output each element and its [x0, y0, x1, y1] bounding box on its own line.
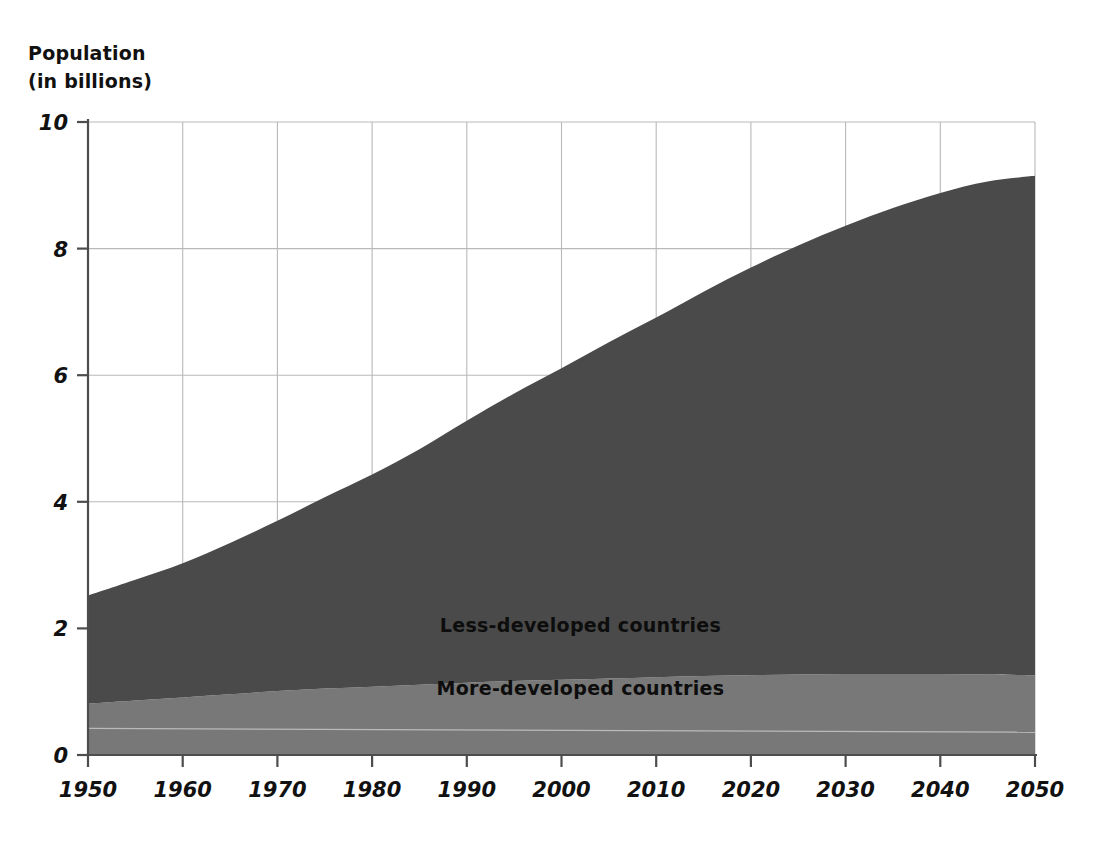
- y-axis-title-line2: (in billions): [28, 70, 152, 92]
- y-tick-label: 6: [53, 364, 68, 388]
- x-tick-label: 1950: [59, 778, 117, 802]
- x-tick-label: 1960: [153, 778, 211, 802]
- chart-canvas: Population (in billions) 0246810 1950196…: [0, 0, 1107, 845]
- x-tick-label: 1970: [248, 778, 306, 802]
- x-tick-label: 1980: [343, 778, 401, 802]
- x-tick-labels: 1950196019701980199020002010202020302040…: [59, 778, 1064, 802]
- x-tick-label: 2050: [1006, 778, 1064, 802]
- x-tick-label: 2020: [722, 778, 780, 802]
- y-tick-label: 4: [52, 491, 68, 515]
- y-tick-label: 10: [39, 111, 68, 135]
- x-tick-label: 2030: [816, 778, 874, 802]
- population-area-chart: Population (in billions) 0246810 1950196…: [0, 0, 1107, 845]
- y-tick-label: 2: [53, 617, 68, 641]
- y-axis-title-line1: Population: [28, 42, 146, 64]
- y-tick-label: 0: [53, 744, 68, 768]
- x-tick-label: 2010: [627, 778, 685, 802]
- series-label: Less-developed countries: [440, 614, 721, 636]
- series-label: More-developed countries: [437, 677, 725, 699]
- x-tick-label: 2040: [911, 778, 969, 802]
- x-tick-label: 2000: [532, 778, 590, 802]
- x-tick-label: 1990: [438, 778, 496, 802]
- y-tick-label: 8: [53, 238, 68, 262]
